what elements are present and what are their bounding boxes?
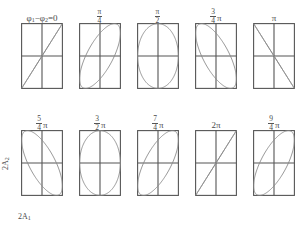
panel-phase-label: π [245, 0, 303, 23]
panel-plot [21, 130, 63, 196]
fraction: 32 [94, 115, 100, 131]
panel-plot [79, 130, 121, 196]
lissajous-panel: 2π [187, 107, 245, 211]
panel-phase-label: 32π [71, 107, 129, 130]
lissajous-panel: π4 [71, 0, 129, 104]
panel-phase-label: 2π [187, 107, 245, 130]
panel-phase-label: π2 [129, 0, 187, 23]
fraction: π2 [155, 8, 161, 24]
lissajous-panel: 94π [245, 107, 303, 211]
panel-phase-label: 54π [13, 107, 71, 130]
panel-phase-label: 74π [129, 107, 187, 130]
panel-plot [195, 130, 237, 196]
lissajous-panel: φ1−φ2=0 [13, 0, 71, 104]
fraction: 94 [268, 115, 274, 131]
fraction: 34 [210, 8, 216, 24]
panel-phase-label: 34π [187, 0, 245, 23]
lissajous-panel: π [245, 0, 303, 104]
panel-plot [137, 23, 179, 89]
fraction: π4 [97, 8, 103, 24]
panel-plot [195, 23, 237, 89]
x-axis-label-text: 2A1 [18, 212, 31, 221]
fraction: 74 [152, 115, 158, 131]
y-axis-label: 2A2 [1, 157, 10, 170]
panel-row-bottom: 54π32π74π2π94π [0, 107, 306, 211]
fraction: 54 [36, 115, 42, 131]
lissajous-panel: 74π [129, 107, 187, 211]
y-axis-label-text: 2A2 [1, 157, 10, 170]
lissajous-panel: π2 [129, 0, 187, 104]
x-axis-label: 2A1 [18, 212, 31, 221]
panel-phase-label: 94π [245, 107, 303, 130]
panel-plot [21, 23, 63, 89]
lissajous-panel: 54π [13, 107, 71, 211]
panel-row-top: φ1−φ2=0π4π234ππ [0, 0, 306, 104]
panel-phase-label: π4 [71, 0, 129, 23]
panel-plot [137, 130, 179, 196]
lissajous-panel: 32π [71, 107, 129, 211]
panel-phase-label: φ1−φ2=0 [13, 0, 71, 23]
panel-plot [79, 23, 121, 89]
lissajous-figure-grid: φ1−φ2=0π4π234ππ 54π32π74π2π94π 2A2 2A1 [0, 0, 306, 228]
panel-plot [253, 23, 295, 89]
lissajous-panel: 34π [187, 0, 245, 104]
panel-plot [253, 130, 295, 196]
